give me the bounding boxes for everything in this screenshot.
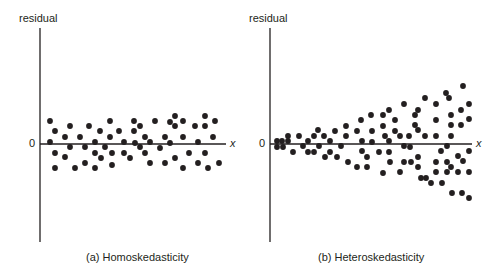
data-point — [407, 144, 413, 150]
data-point — [62, 154, 68, 160]
data-point — [448, 112, 454, 118]
data-point — [321, 133, 327, 139]
data-point — [274, 144, 280, 150]
data-point — [364, 154, 370, 160]
data-point — [332, 128, 338, 134]
data-point — [280, 144, 286, 150]
data-point — [438, 148, 444, 154]
data-point — [167, 140, 173, 146]
data-point — [415, 154, 421, 160]
data-point — [86, 123, 92, 129]
data-point — [137, 144, 143, 150]
data-point — [422, 133, 428, 139]
data-point — [359, 148, 365, 154]
data-point — [418, 175, 424, 181]
panel-b-caption: (b) Heteroskedasticity — [318, 251, 424, 263]
data-point — [285, 138, 291, 144]
data-point — [380, 112, 386, 118]
data-point — [460, 158, 466, 164]
data-point — [92, 139, 98, 145]
data-point — [345, 159, 351, 165]
data-point — [216, 160, 222, 166]
data-point — [116, 128, 122, 134]
data-point — [380, 123, 386, 129]
data-point — [369, 139, 375, 145]
data-point — [327, 138, 333, 144]
data-point — [202, 123, 208, 129]
data-point — [354, 164, 360, 170]
data-point — [205, 165, 211, 171]
data-point — [380, 170, 386, 176]
data-point — [52, 128, 58, 134]
data-point — [92, 150, 98, 156]
data-point — [285, 133, 291, 139]
data-point — [172, 113, 178, 119]
data-point — [186, 150, 192, 156]
data-point — [127, 155, 133, 161]
data-point — [327, 149, 333, 155]
data-point — [131, 118, 137, 124]
data-point — [466, 195, 472, 201]
data-point — [466, 116, 472, 122]
data-point — [311, 133, 317, 139]
data-point — [455, 169, 461, 175]
data-point — [162, 160, 168, 166]
data-point — [172, 155, 178, 161]
data-point — [107, 134, 113, 140]
data-point — [406, 133, 412, 139]
data-point — [279, 138, 285, 144]
data-point — [52, 150, 58, 156]
data-point — [274, 138, 280, 144]
data-point — [448, 133, 454, 139]
data-point — [387, 159, 393, 165]
data-point — [180, 134, 186, 140]
data-point — [180, 118, 186, 124]
data-point — [433, 117, 439, 123]
data-point — [77, 134, 83, 140]
data-point — [401, 159, 407, 165]
data-point — [82, 144, 88, 150]
data-point — [354, 128, 360, 134]
data-point — [397, 133, 403, 139]
panel-a-zero-label: 0 — [29, 137, 35, 149]
data-point — [412, 112, 418, 118]
data-point — [47, 139, 53, 145]
data-point — [368, 112, 374, 118]
data-point — [444, 169, 450, 175]
data-point — [102, 144, 108, 150]
data-point — [132, 140, 138, 146]
data-point — [459, 190, 465, 196]
data-point — [67, 144, 73, 150]
data-point — [401, 101, 407, 107]
data-point — [334, 154, 340, 160]
data-point — [98, 155, 104, 161]
data-point — [152, 118, 158, 124]
data-point — [415, 164, 421, 170]
data-point — [296, 133, 302, 139]
data-point — [142, 134, 148, 140]
data-point — [147, 139, 153, 145]
data-point — [455, 153, 461, 159]
data-point — [358, 117, 364, 123]
data-point — [97, 128, 103, 134]
data-point — [210, 134, 216, 140]
data-point — [62, 134, 68, 140]
data-point — [109, 150, 115, 156]
data-point — [180, 165, 186, 171]
data-point — [290, 149, 296, 155]
data-point — [444, 143, 450, 149]
data-point — [131, 128, 137, 134]
data-point — [415, 127, 421, 133]
data-point — [359, 138, 365, 144]
residual-plots-canvas — [0, 0, 504, 274]
data-point — [202, 150, 208, 156]
panel-b-x-axis-label: x — [476, 137, 482, 149]
data-point — [364, 164, 370, 170]
data-point — [343, 133, 349, 139]
data-point — [142, 150, 148, 156]
data-point — [466, 101, 472, 107]
data-point — [167, 119, 173, 125]
data-point — [192, 123, 198, 129]
data-point — [392, 117, 398, 123]
data-point — [172, 123, 178, 129]
